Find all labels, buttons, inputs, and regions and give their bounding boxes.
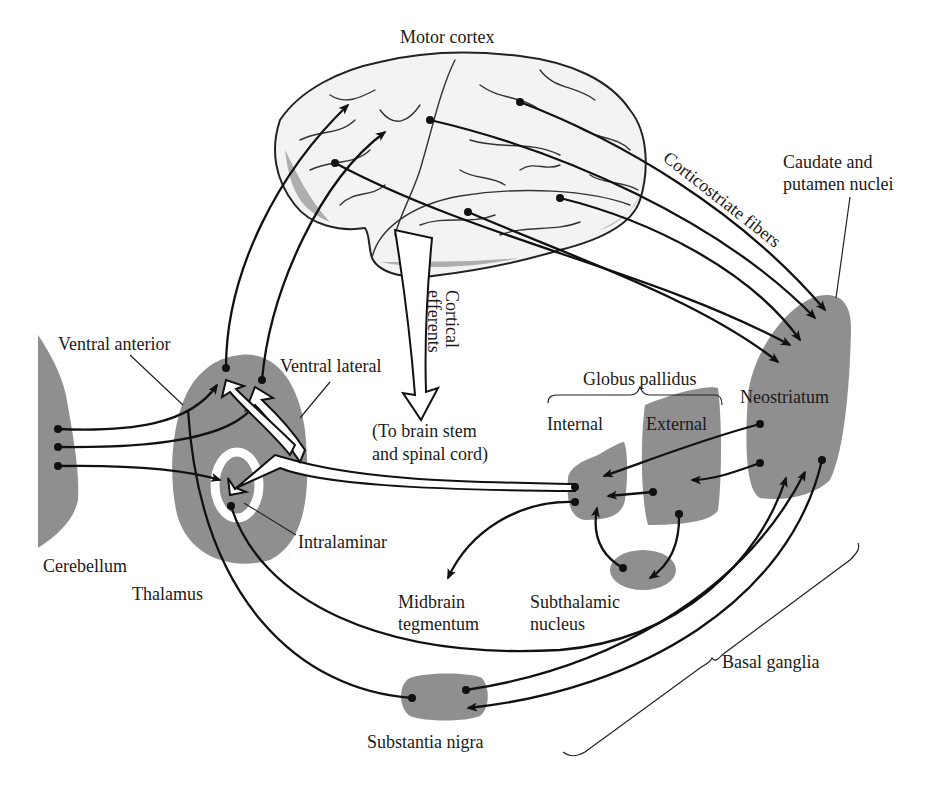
midbrain-label-line2: tegmentum <box>398 614 479 634</box>
pallido-tegmental-fiber <box>448 502 575 578</box>
basal-ganglia-label: Basal ganglia <box>722 652 819 672</box>
motor-cortex-label: Motor cortex <box>400 27 494 47</box>
basal-ganglia-motor-circuit-diagram: Motor cortex Caudate and putamen nuclei … <box>0 0 951 788</box>
neostriatum-label: Neostriatum <box>740 387 829 407</box>
cerebellum-label: Cerebellum <box>43 556 127 576</box>
brain-illustration <box>275 53 646 277</box>
ventral-anterior-leader <box>130 355 183 405</box>
intralaminar-label: Intralaminar <box>298 532 387 552</box>
ventral-lateral-leader <box>300 382 330 418</box>
subthalamic-label-line1: Subthalamic <box>530 592 620 612</box>
to-brainstem-label-line1: (To brain stem <box>372 421 477 442</box>
caudate-leader <box>836 197 850 298</box>
cerebellum-region <box>38 335 78 548</box>
internal-label: Internal <box>547 414 603 434</box>
cortical-efferents-label-line1: Cortical <box>442 290 462 348</box>
substantia-nigra-label: Substantia nigra <box>367 732 483 752</box>
external-label: External <box>646 414 707 434</box>
corticostriate-label: Corticostriate fibers <box>660 147 785 251</box>
ventral-anterior-label: Ventral anterior <box>58 334 170 354</box>
thalamus-label: Thalamus <box>132 584 203 604</box>
subthalamic-label-line2: nucleus <box>530 614 585 634</box>
to-brainstem-label-line2: and spinal cord) <box>372 444 488 465</box>
midbrain-label-line1: Midbrain <box>398 592 465 612</box>
globus-pallidus-external-region <box>642 387 721 525</box>
caudate-label-line1: Caudate and <box>783 152 872 172</box>
globus-pallidus-label: Globus pallidus <box>583 369 697 389</box>
cortical-efferents-label-line2: efferents <box>424 290 444 353</box>
ventral-lateral-label: Ventral lateral <box>280 356 381 376</box>
caudate-label-line2: putamen nuclei <box>783 174 893 194</box>
